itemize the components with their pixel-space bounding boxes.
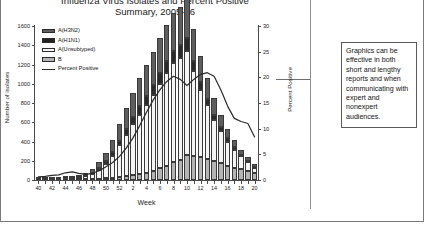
legend-swatch-b [42, 57, 55, 62]
y-tick-label-left: 1600 [1, 23, 30, 29]
y-tick-label-right: 25 [263, 49, 269, 55]
y-tick-label-right: 10 [263, 126, 269, 132]
figure-page: Influenza Virus Isolates and Percent Pos… [0, 0, 425, 225]
x-tick [52, 181, 53, 184]
x-tick [79, 181, 80, 184]
x-tick [234, 181, 235, 184]
x-axis-title: Week [35, 199, 258, 206]
legend-item-percent-positive: Percent Positive [42, 64, 122, 74]
y-tick-label-left: 200 [1, 158, 30, 164]
chart-title-line2: Summary, 2005-06 [22, 6, 288, 17]
x-tick-label: 18 [238, 185, 244, 191]
x-tick-label: 42 [49, 185, 55, 191]
sidebar-callout-text: Graphics can be effective in both short … [341, 42, 417, 128]
y-tick-label-left: 400 [1, 139, 30, 145]
x-tick [86, 181, 87, 184]
x-tick-label: 50 [103, 185, 109, 191]
y-tick-right [258, 77, 261, 78]
x-tick-label: 6 [159, 185, 162, 191]
x-tick [140, 181, 141, 184]
x-tick [180, 181, 181, 184]
x-tick [65, 181, 66, 184]
y-tick-label-right: 30 [263, 23, 269, 29]
y-tick-right [258, 26, 261, 27]
legend-swatch-h1n1 [42, 38, 55, 43]
x-tick [119, 181, 120, 184]
x-tick-label: 14 [211, 185, 217, 191]
y-tick-right [258, 180, 261, 181]
x-tick-label: 12 [198, 185, 204, 191]
y-axis-title-right: Percent Positive [286, 55, 293, 125]
y-tick-right [258, 129, 261, 130]
x-tick-label: 16 [225, 185, 231, 191]
x-tick [72, 181, 73, 184]
x-tick [241, 181, 242, 184]
x-tick [99, 181, 100, 184]
x-tick-label: 8 [172, 185, 175, 191]
x-tick [113, 181, 114, 184]
x-tick [201, 181, 202, 184]
y-tick-label-right: 0 [263, 177, 266, 183]
y-tick-label-left: 1200 [1, 62, 30, 68]
y-tick-label-left: 1000 [1, 81, 30, 87]
x-tick-label: 2 [131, 185, 134, 191]
x-tick [187, 181, 188, 184]
x-tick-label: 48 [89, 185, 95, 191]
legend-item-h3n2: A(H3N2) [42, 26, 122, 36]
legend-item-unsubtyped: A(Unsubtyped) [42, 45, 122, 55]
x-tick [106, 181, 107, 184]
chart-legend: A(H3N2) A(H1N1) A(Unsubtyped) B Percent … [42, 26, 122, 74]
legend-label-unsubtyped: A(Unsubtyped) [58, 46, 95, 52]
x-tick-label: 20 [252, 185, 258, 191]
y-tick-right [258, 52, 261, 53]
x-tick-label: 40 [35, 185, 41, 191]
legend-label-percent-positive: Percent Positive [58, 65, 98, 71]
y-tick-label-right: 15 [263, 100, 269, 106]
column-divider [310, 0, 311, 209]
legend-item-h1n1: A(H1N1) [42, 36, 122, 46]
x-tick [126, 181, 127, 184]
legend-swatch-percent-positive [42, 69, 55, 70]
x-tick [153, 181, 154, 184]
y-tick-label-right: 5 [263, 151, 266, 157]
x-tick [228, 181, 229, 184]
x-tick [45, 181, 46, 184]
x-tick-label: 44 [62, 185, 68, 191]
legend-item-b: B [42, 55, 122, 65]
y-tick-label-left: 1400 [1, 42, 30, 48]
x-tick [174, 181, 175, 184]
y-tick-right [258, 154, 261, 155]
y-tick-right [258, 103, 261, 104]
x-tick [214, 181, 215, 184]
x-tick [133, 181, 134, 184]
legend-swatch-unsubtyped [42, 48, 55, 53]
y-tick-label-left: 0 [1, 177, 30, 183]
legend-label-h1n1: A(H1N1) [58, 37, 80, 43]
sidebar-connector-rule [276, 79, 310, 80]
y-tick-label-left: 800 [1, 100, 30, 106]
x-tick [160, 181, 161, 184]
x-tick [255, 181, 256, 184]
legend-label-b: B [58, 56, 62, 62]
x-tick-label: 46 [76, 185, 82, 191]
legend-label-h3n2: A(H3N2) [58, 27, 80, 33]
x-tick-label: 52 [116, 185, 122, 191]
y-tick-label-right: 20 [263, 74, 269, 80]
x-tick [194, 181, 195, 184]
x-tick [59, 181, 60, 184]
x-tick-label: 10 [184, 185, 190, 191]
y-tick-left [32, 180, 35, 181]
x-tick [38, 181, 39, 184]
x-tick [147, 181, 148, 184]
legend-swatch-h3n2 [42, 29, 55, 34]
x-tick [221, 181, 222, 184]
x-tick [167, 181, 168, 184]
x-tick [207, 181, 208, 184]
x-tick [92, 181, 93, 184]
x-tick-label: 4 [145, 185, 148, 191]
x-tick [248, 181, 249, 184]
y-tick-label-left: 600 [1, 119, 30, 125]
chart-title: Influenza Virus Isolates and Percent Pos… [22, 0, 288, 17]
